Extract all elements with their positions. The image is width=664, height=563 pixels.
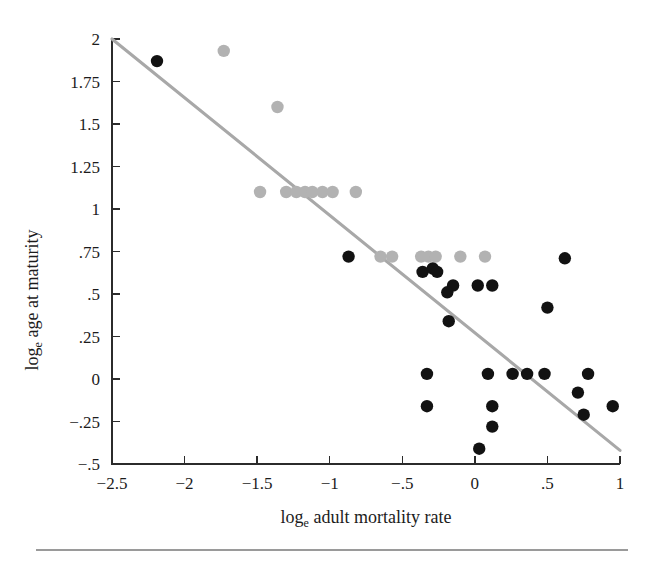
y-axis-title: loge age at maturity <box>22 230 45 371</box>
data-point <box>538 368 550 380</box>
data-point <box>486 420 498 432</box>
x-tick-label: 1 <box>616 474 625 493</box>
data-point <box>271 101 283 113</box>
x-axis-title-rest: adult mortality rate <box>309 507 451 527</box>
data-point <box>374 250 386 262</box>
data-point <box>482 368 494 380</box>
data-point <box>607 400 619 412</box>
data-point <box>431 266 443 278</box>
data-point <box>472 279 484 291</box>
data-point <box>443 315 455 327</box>
y-axis-title-rest: age at maturity <box>22 230 42 342</box>
series-gray-group <box>218 45 492 263</box>
x-axis-title: loge adult mortality rate <box>281 507 452 530</box>
data-point <box>421 368 433 380</box>
svg-text:loge adult mortality rate: loge adult mortality rate <box>281 507 452 530</box>
data-point <box>479 250 491 262</box>
trendline-group <box>112 39 620 450</box>
x-tick-label: −.5 <box>391 474 413 493</box>
y-tick-label: 1.5 <box>79 115 100 134</box>
scatter-plot: 21.751.51.251.75.5.250−.25−.5−2.5−2−1.5−… <box>0 0 664 563</box>
y-axis-title-log: log <box>22 347 42 370</box>
x-tick-label: .5 <box>541 474 554 493</box>
data-point <box>441 286 453 298</box>
y-tick-label: −.25 <box>69 413 100 432</box>
data-point <box>541 301 553 313</box>
data-point <box>254 186 266 198</box>
regression-line <box>112 39 620 450</box>
svg-text:loge age at maturity: loge age at maturity <box>22 230 45 371</box>
data-point <box>559 252 571 264</box>
data-point <box>486 400 498 412</box>
data-point <box>506 368 518 380</box>
axis-group <box>112 39 620 464</box>
data-point <box>486 279 498 291</box>
data-point <box>521 368 533 380</box>
y-tick-label: 2 <box>92 30 101 49</box>
x-tick-label: 0 <box>471 474 480 493</box>
data-point <box>386 250 398 262</box>
figure-container: 21.751.51.251.75.5.250−.25−.5−2.5−2−1.5−… <box>0 0 664 563</box>
axis-lines <box>112 39 620 464</box>
data-point <box>421 400 433 412</box>
y-tick-label: −.5 <box>78 455 100 474</box>
data-point <box>578 409 590 421</box>
y-tick-label: .25 <box>79 328 100 347</box>
data-point <box>151 55 163 67</box>
x-tick-label: −1.5 <box>242 474 273 493</box>
data-point <box>326 186 338 198</box>
data-point <box>582 368 594 380</box>
data-point <box>342 250 354 262</box>
data-point <box>454 250 466 262</box>
x-tick-label: −1 <box>321 474 339 493</box>
data-point <box>572 386 584 398</box>
y-tick-label: 1 <box>92 200 101 219</box>
x-axis-title-log: log <box>281 507 304 527</box>
x-tick-label: −2.5 <box>97 474 128 493</box>
data-point <box>473 443 485 455</box>
y-tick-label: 0 <box>92 370 101 389</box>
data-point <box>429 250 441 262</box>
x-tick-label: −2 <box>176 474 194 493</box>
y-tick-label: 1.25 <box>70 158 100 177</box>
data-point <box>218 45 230 57</box>
data-point <box>350 186 362 198</box>
y-tick-label: .75 <box>79 243 100 262</box>
y-tick-label: 1.75 <box>70 73 100 92</box>
y-tick-label: .5 <box>87 285 100 304</box>
